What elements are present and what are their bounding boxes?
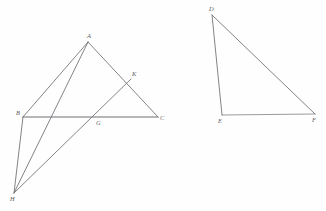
vertex-label-e: E xyxy=(218,118,222,125)
vertex-label-a: A xyxy=(87,33,91,40)
segment-DE xyxy=(212,15,222,115)
vertex-label-d: D xyxy=(209,6,214,13)
vertex-label-k: K xyxy=(132,71,137,78)
vertex-label-g: G xyxy=(96,120,101,127)
segment-AC xyxy=(88,42,158,117)
vertex-label-c: C xyxy=(160,115,165,122)
segment-DF xyxy=(212,15,315,114)
vertex-label-b: B xyxy=(16,110,20,117)
vertex-label-f: F xyxy=(312,117,316,124)
left-triangle-group xyxy=(14,42,158,193)
segment-EF xyxy=(222,114,315,115)
figure-canvas: A B C K G H D E F xyxy=(0,0,326,211)
segment-AB xyxy=(23,42,88,117)
right-triangle-group xyxy=(212,15,315,115)
vertex-label-h: H xyxy=(10,196,15,203)
segment-KH xyxy=(14,79,131,193)
geometry-drawing xyxy=(0,0,326,211)
segment-BH xyxy=(14,117,23,193)
